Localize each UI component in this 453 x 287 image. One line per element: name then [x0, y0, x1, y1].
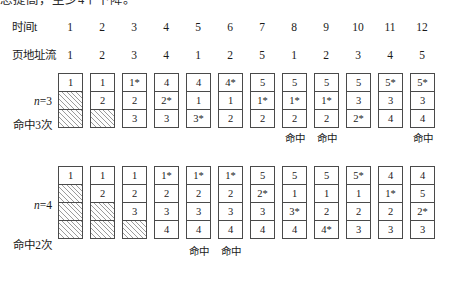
frame-cell: 2: [90, 184, 115, 203]
time-value-12: 12: [410, 19, 434, 35]
frame-cell: 3: [346, 91, 371, 110]
hit-marker-n3-t9: 命中: [314, 132, 339, 145]
frame-cell: 4*: [314, 220, 339, 239]
clipped-text-line: 总提高，至少4个下降。: [0, 0, 160, 9]
time-value-2: 2: [90, 19, 114, 35]
frame-cell: 3: [378, 91, 403, 110]
frame-cell: 1: [90, 166, 115, 185]
frame-column-n4-t4: 1*234: [154, 166, 179, 239]
frame-column-n4-t12: 452*3: [410, 166, 435, 239]
hit-count-label-n3: 命中3次: [2, 118, 52, 132]
page-value-7: 5: [250, 47, 274, 63]
frame-cell: 1*: [314, 91, 339, 110]
frame-cell: 5: [314, 166, 339, 185]
page-value-9: 2: [314, 47, 338, 63]
time-value-11: 11: [378, 19, 402, 35]
frame-cell-empty: [58, 220, 83, 239]
page-value-10: 3: [346, 47, 370, 63]
frame-cell: 2: [314, 202, 339, 221]
page-value-2: 2: [90, 47, 114, 63]
frame-cell-empty: [58, 91, 83, 110]
frame-cell: 5*: [410, 73, 435, 92]
frame-cell: 1: [58, 166, 83, 185]
frame-column-n3-t11: 5*34: [378, 73, 403, 128]
frame-column-n3-t6: 4*12: [218, 73, 243, 128]
frame-cell: 3: [122, 109, 147, 128]
frame-column-n3-t5: 413*: [186, 73, 211, 128]
frame-cell: 3: [154, 202, 179, 221]
time-value-5: 5: [186, 19, 210, 35]
time-value-3: 3: [122, 19, 146, 35]
frame-cell: 1: [90, 73, 115, 92]
frame-cell: 5: [250, 166, 275, 185]
clipped-text: 总提高，至少4个下降。: [0, 0, 136, 9]
frame-cell: 3*: [282, 202, 307, 221]
time-row-label: 时间t: [12, 19, 56, 35]
frame-cell: 2: [122, 184, 147, 203]
time-value-9: 9: [314, 19, 338, 35]
frame-cell: 2: [250, 109, 275, 128]
frame-cell: 3: [250, 202, 275, 221]
frame-column-n3-t3: 1*23: [122, 73, 147, 128]
frame-column-n3-t12: 5*34: [410, 73, 435, 128]
frame-cell: 4: [218, 220, 243, 239]
hit-marker-n4-t6: 命中: [218, 245, 243, 258]
frame-cell: 1*: [378, 184, 403, 203]
frame-column-n3-t2: 12: [90, 73, 115, 128]
frame-cell: 2: [90, 91, 115, 110]
frame-cell: 4: [186, 220, 211, 239]
frame-cell: 1*: [250, 91, 275, 110]
frame-section-n3: n=3 命中3次 1121*2342*3413*4*1251*251*2命中51…: [0, 73, 453, 153]
frame-cell: 3: [154, 109, 179, 128]
frame-cell: 5: [250, 73, 275, 92]
frame-cell: 4: [282, 220, 307, 239]
hit-count-label-n4: 命中2次: [2, 238, 52, 252]
frame-cell-empty: [90, 202, 115, 221]
frame-cell-empty: [58, 202, 83, 221]
time-header-row: 时间t 123456789101112: [0, 19, 453, 35]
frame-cell: 2*: [346, 109, 371, 128]
frame-cell: 1: [218, 91, 243, 110]
frame-cell: 4: [250, 220, 275, 239]
frame-cell: 2: [378, 202, 403, 221]
frame-cell: 2: [218, 184, 243, 203]
frame-cell: 5*: [346, 166, 371, 185]
page-value-12: 5: [410, 47, 434, 63]
frame-column-n4-t3: 123: [122, 166, 147, 239]
frame-cell: 1*: [282, 91, 307, 110]
frame-cell-empty: [90, 220, 115, 239]
frame-cell: 1: [122, 166, 147, 185]
frame-cell: 5: [410, 184, 435, 203]
frame-cell: 4: [154, 220, 179, 239]
frame-cell: 2: [186, 184, 211, 203]
frame-column-n3-t10: 532*: [346, 73, 371, 128]
frame-cell: 2: [122, 91, 147, 110]
frame-column-n4-t2: 12: [90, 166, 115, 239]
frame-cell: 5: [282, 73, 307, 92]
frame-cell-empty: [90, 109, 115, 128]
frame-cell: 5: [346, 73, 371, 92]
time-value-4: 4: [154, 19, 178, 35]
time-value-6: 6: [218, 19, 242, 35]
frame-section-n4: n=4 命中2次 1121231*2341*234命中1*234命中52*345…: [0, 166, 453, 284]
frame-column-n4-t6: 1*234: [218, 166, 243, 239]
frame-cell: 1: [58, 73, 83, 92]
frame-cell: 1*: [186, 166, 211, 185]
page-stream-header-row: 页地址流 123412512345: [0, 47, 453, 63]
frame-cell: 3: [378, 220, 403, 239]
frame-cell: 1: [282, 184, 307, 203]
hit-marker-n3-t8: 命中: [282, 132, 307, 145]
frame-count-label-n4: n=4: [0, 198, 52, 212]
frame-cell: 3: [218, 202, 243, 221]
frame-column-n4-t8: 513*4: [282, 166, 307, 239]
frame-cell: 4: [186, 73, 211, 92]
frame-cell: 2*: [250, 184, 275, 203]
frame-count-label-n3: n=3: [0, 94, 52, 108]
frame-cell: 1*: [154, 166, 179, 185]
frame-column-n3-t4: 42*3: [154, 73, 179, 128]
frame-cell: 5: [282, 166, 307, 185]
frame-cell: 3*: [186, 109, 211, 128]
page-value-8: 1: [282, 47, 306, 63]
frame-column-n3-t8: 51*2: [282, 73, 307, 128]
time-value-7: 7: [250, 19, 274, 35]
